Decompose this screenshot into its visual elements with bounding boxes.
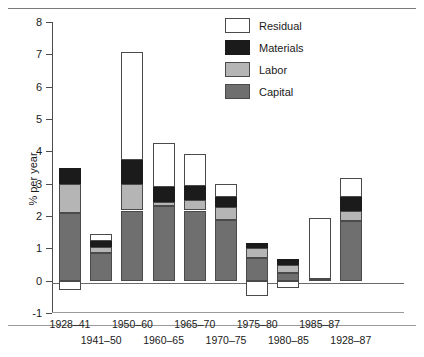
bar-group [121, 22, 143, 313]
bar-segment-materials [90, 241, 112, 247]
bar-segment-capital [90, 253, 112, 281]
bar-segment-capital [184, 211, 206, 281]
legend-label: Labor [259, 64, 287, 76]
bar-segment-materials [121, 160, 143, 184]
legend-item: Labor [225, 60, 345, 79]
y-tick-mark [46, 281, 52, 282]
y-tick-mark [46, 248, 52, 249]
bar-segment-residual [215, 184, 237, 197]
bar-segment-materials [153, 187, 175, 202]
y-tick-label: 0 [36, 275, 42, 286]
bar-segment-residual [309, 218, 331, 279]
x-axis-label: 1928–41 [50, 318, 91, 330]
bar-group [59, 22, 81, 313]
y-tick-label: 1 [36, 243, 42, 254]
x-axis-label: 1960–65 [143, 334, 184, 346]
chart-legend: ResidualMaterialsLaborCapital [225, 16, 345, 104]
bar-segment-capital [121, 211, 143, 281]
y-tick-mark [46, 184, 52, 185]
y-tick-label: 4 [36, 146, 42, 157]
x-axis-label: 1941–50 [81, 334, 122, 346]
bar-segment-labor [277, 265, 299, 273]
bar-segment-capital [309, 279, 331, 281]
bar-segment-labor [184, 200, 206, 211]
bar-segment-residual [59, 281, 81, 291]
bar-segment-residual [121, 52, 143, 160]
y-tick-mark [46, 151, 52, 152]
top-divider-rule [8, 8, 416, 9]
legend-label: Residual [259, 20, 302, 32]
x-axis-label: 1965–70 [174, 318, 215, 330]
bar-group [153, 22, 175, 313]
y-tick-mark [46, 22, 52, 23]
y-tick-mark [46, 119, 52, 120]
legend-label: Capital [259, 86, 293, 98]
bar-segment-labor [121, 184, 143, 211]
x-axis-label: 1928–87 [330, 334, 371, 346]
bar-segment-labor [90, 247, 112, 253]
bar-segment-residual [277, 281, 299, 288]
x-axis-label: 1980–85 [268, 334, 309, 346]
bar-segment-materials [215, 197, 237, 208]
y-axis-line [52, 22, 53, 313]
bar-segment-materials [184, 186, 206, 200]
y-tick-mark [46, 87, 52, 88]
bar-segment-residual [246, 281, 268, 296]
bar-segment-materials [59, 168, 81, 184]
bar-segment-capital [277, 273, 299, 280]
y-tick-label: 7 [36, 49, 42, 60]
legend-swatch-materials [225, 40, 250, 55]
bar-segment-labor [215, 207, 237, 220]
bar-segment-capital [59, 213, 81, 281]
y-tick-mark [46, 313, 52, 314]
bar-group [90, 22, 112, 313]
legend-swatch-labor [225, 62, 250, 77]
bar-segment-materials [340, 197, 362, 211]
bar-segment-capital [246, 258, 268, 281]
legend-item: Residual [225, 16, 345, 35]
bar-segment-residual [153, 143, 175, 187]
legend-label: Materials [259, 42, 304, 54]
bar-segment-labor [153, 202, 175, 206]
y-tick-label: 8 [36, 17, 42, 28]
stacked-bar-chart: % per year -1012345678 1928–411941–50195… [0, 0, 424, 357]
legend-item: Capital [225, 82, 345, 101]
y-tick-label: -1 [32, 308, 42, 319]
x-axis-label: 1975–80 [237, 318, 278, 330]
x-axis-label: 1950–60 [112, 318, 153, 330]
y-tick-label: 3 [36, 178, 42, 189]
y-tick-label: 2 [36, 211, 42, 222]
legend-item: Materials [225, 38, 345, 57]
bar-segment-capital [215, 220, 237, 280]
x-axis-label: 1985–87 [299, 318, 340, 330]
y-tick-mark [46, 54, 52, 55]
bar-segment-residual [90, 234, 112, 240]
y-tick-label: 6 [36, 81, 42, 92]
bar-segment-materials [277, 259, 299, 265]
x-axis-label: 1970–75 [206, 334, 247, 346]
legend-swatch-capital [225, 84, 250, 99]
y-tick-label: 5 [36, 114, 42, 125]
bar-segment-residual [340, 178, 362, 196]
bar-group [184, 22, 206, 313]
bar-segment-materials [246, 243, 268, 248]
y-tick-mark [46, 216, 52, 217]
bar-segment-capital [153, 206, 175, 280]
bar-segment-labor [340, 211, 362, 222]
bar-segment-labor [59, 184, 81, 213]
bar-segment-labor [246, 248, 268, 258]
bar-segment-capital [340, 221, 362, 280]
bar-segment-residual [184, 154, 206, 186]
legend-swatch-residual [225, 18, 250, 33]
